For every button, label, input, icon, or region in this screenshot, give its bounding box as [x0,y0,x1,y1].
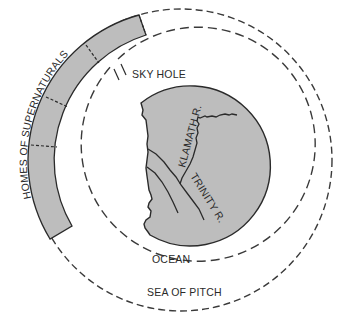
homes-of-supernaturals-band [28,15,146,239]
land-mass [141,86,270,246]
sky-hole-label: SKY HOLE [132,68,186,80]
sea-of-pitch-label: SEA OF PITCH [147,286,222,298]
sky-hole-marker [114,64,126,80]
ocean-label: OCEAN [152,253,190,265]
cosmology-diagram: HOMES OF SUPERNATURALS SKY HOLE KLAMATH … [0,0,343,331]
